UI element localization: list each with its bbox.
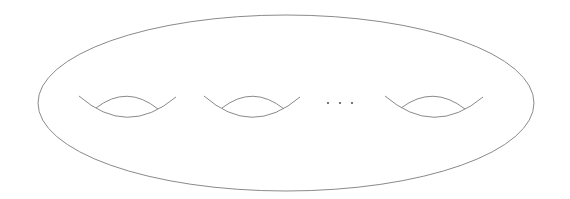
ellipsis-dot: [327, 102, 329, 104]
handle-lower-arc: [204, 96, 300, 117]
ellipsis-dot: [351, 102, 353, 104]
surface-outline: [38, 15, 534, 191]
ellipsis-dots: [327, 102, 353, 104]
handle-upper-arc: [96, 96, 158, 109]
handle-upper-arc: [401, 96, 465, 109]
handle-lower-arc: [79, 96, 176, 117]
handle-3: [385, 96, 483, 117]
handle-2: [204, 96, 300, 117]
ellipsis-dot: [339, 102, 341, 104]
diagram-svg: [0, 0, 570, 199]
handle-upper-arc: [222, 96, 284, 109]
handle-1: [79, 96, 176, 117]
genus-surface-diagram: [0, 0, 570, 199]
handle-lower-arc: [385, 96, 483, 117]
handles-group: [79, 96, 483, 117]
